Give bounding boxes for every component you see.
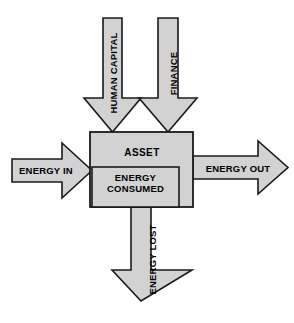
energy-lost-label: ENERGY LOST (147, 220, 158, 300)
energy-out-label: ENERGY OUT (200, 163, 276, 174)
human-capital-label: HUMAN CAPITAL (108, 34, 119, 114)
asset-energy-flow-diagram: ASSET ENERGY CONSUMED ENERGY IN ENERGY O… (0, 0, 294, 323)
energy-consumed-box-label: ENERGY CONSUMED (92, 172, 179, 194)
energy-consumed-line-one: ENERGY (115, 172, 156, 183)
finance-label: FINANCE (168, 34, 179, 114)
energy-consumed-line-two: CONSUMED (107, 183, 164, 194)
asset-box-label: ASSET (90, 147, 194, 158)
energy-in-label: ENERGY IN (12, 165, 80, 176)
